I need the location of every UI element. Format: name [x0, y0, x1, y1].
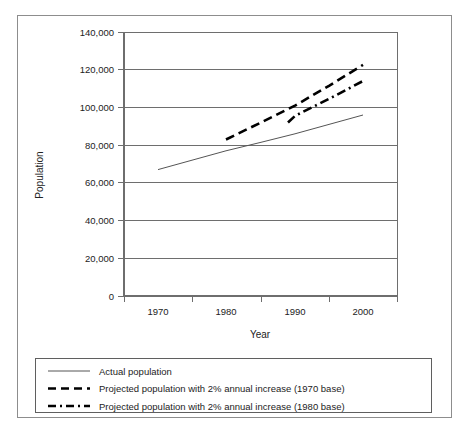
population-line-chart: 140,000 120,000 100,000 80,000 60,000 40…: [0, 0, 470, 437]
y-tick-label: 80,000: [85, 140, 114, 151]
data-series: [158, 65, 363, 170]
x-tick-labels: 1970 1980 1990 2000: [147, 306, 373, 317]
axes: [124, 32, 397, 296]
series-actual-population: [158, 115, 363, 170]
series-projected-1970-base: [226, 65, 363, 140]
legend-label-actual: Actual population: [99, 366, 172, 377]
y-tick-label: 60,000: [85, 177, 114, 188]
x-tick-label: 2000: [352, 306, 373, 317]
gridlines: [124, 32, 397, 296]
x-tick-label: 1990: [284, 306, 305, 317]
chart-legend: Actual population Projected population w…: [36, 359, 432, 413]
y-tick-label: 120,000: [80, 64, 114, 75]
y-tick-label: 140,000: [80, 27, 114, 38]
x-tickmarks: [124, 296, 397, 302]
chart-figure: 140,000 120,000 100,000 80,000 60,000 40…: [0, 0, 470, 437]
x-tick-label: 1970: [147, 306, 168, 317]
legend-label-projected-1970: Projected population with 2% annual incr…: [99, 383, 345, 394]
x-axis-title: Year: [250, 329, 271, 340]
legend-label-projected-1980: Projected population with 2% annual incr…: [99, 401, 345, 412]
x-tick-label: 1980: [215, 306, 236, 317]
y-tick-labels: 140,000 120,000 100,000 80,000 60,000 40…: [80, 27, 114, 302]
y-tick-label: 0: [109, 291, 114, 302]
y-tick-label: 20,000: [85, 253, 114, 264]
y-axis-title: Population: [34, 151, 45, 198]
y-tickmarks: [118, 32, 124, 296]
y-tick-label: 40,000: [85, 215, 114, 226]
y-tick-label: 100,000: [80, 102, 114, 113]
